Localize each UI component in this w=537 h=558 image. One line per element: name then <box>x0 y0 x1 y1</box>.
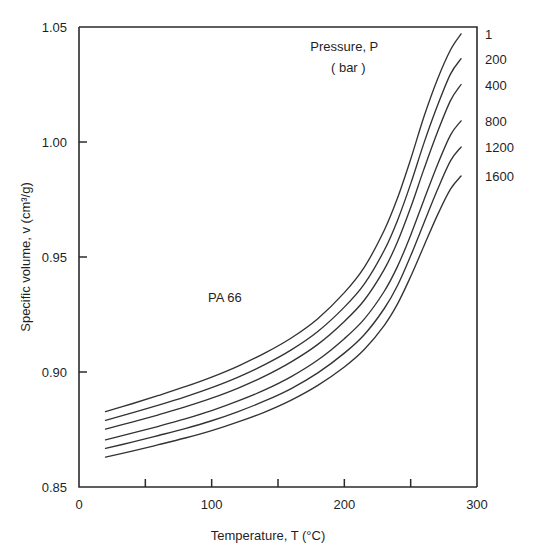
pressure-header-line2: ( bar ) <box>331 60 366 75</box>
y-axis-title: Specific volume, v (cm³/g) <box>18 182 33 332</box>
x-axis-title: Temperature, T (°C) <box>211 528 326 543</box>
series-pressure-labels: 120040080012001600 <box>485 27 514 184</box>
y-axis-ticks <box>79 142 87 372</box>
series-label-800: 800 <box>485 114 507 129</box>
curve-400-bar <box>106 85 462 430</box>
y-tick-label-0-95: 0.95 <box>42 250 67 265</box>
x-tick-label-300: 300 <box>466 497 488 512</box>
series-label-1: 1 <box>485 27 492 42</box>
x-tick-label-0: 0 <box>75 497 82 512</box>
x-tick-label-100: 100 <box>201 497 223 512</box>
pressure-header-line1: Pressure, P <box>310 39 378 54</box>
series-label-1600: 1600 <box>485 169 514 184</box>
x-axis-tick-labels: 0100200300 <box>75 497 487 512</box>
y-tick-label-0-90: 0.90 <box>42 365 67 380</box>
y-tick-label-0-85: 0.85 <box>42 480 67 495</box>
y-axis-tick-labels: 0.850.900.951.001.05 <box>42 20 67 495</box>
plot-frame <box>79 27 477 487</box>
material-label: PA 66 <box>208 290 242 305</box>
y-tick-label-1-05: 1.05 <box>42 20 67 35</box>
data-curves <box>106 34 462 457</box>
axis-frame <box>79 27 477 487</box>
x-tick-label-200: 200 <box>333 497 355 512</box>
specific-volume-vs-temperature-chart: 0100200300 0.850.900.951.001.05 12004008… <box>0 0 537 558</box>
plot-annotations: Pressure, P( bar )PA 66 <box>208 39 378 305</box>
x-axis-ticks <box>145 479 410 487</box>
series-label-200: 200 <box>485 52 507 67</box>
y-tick-label-1-00: 1.00 <box>42 135 67 150</box>
series-label-400: 400 <box>485 78 507 93</box>
series-label-1200: 1200 <box>485 140 514 155</box>
figure-container: 0100200300 0.850.900.951.001.05 12004008… <box>0 0 537 558</box>
